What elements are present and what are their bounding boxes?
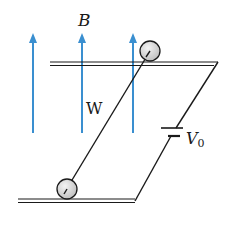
circuit-wire-right (135, 62, 218, 201)
bottom-wheel (57, 179, 77, 199)
field-label-b: B (78, 12, 91, 29)
battery-symbol (161, 128, 183, 136)
voltage-label-main: V (186, 129, 198, 148)
field-arrow-left (29, 33, 37, 133)
wire-w (66, 51, 150, 190)
magnetic-field-arrows (29, 33, 137, 133)
voltage-label-subscript: 0 (198, 137, 205, 150)
rail-circuit-diagram (0, 0, 228, 228)
top-wheel (140, 41, 160, 61)
wire-label-w: W (86, 101, 102, 117)
voltage-label: V0 (186, 131, 205, 149)
field-arrow-middle (78, 33, 86, 133)
bottom-rail (18, 199, 135, 203)
